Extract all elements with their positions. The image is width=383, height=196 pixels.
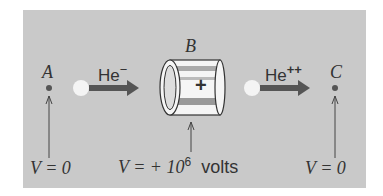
potential-c: V = 0: [305, 158, 346, 179]
positive-sign: +: [195, 74, 207, 97]
beam-2-label: He++: [265, 62, 302, 86]
ion-he-plus-plus: [244, 80, 260, 96]
point-c-dot: [332, 85, 338, 91]
point-a-dot: [46, 85, 52, 91]
point-a-label: A: [42, 62, 53, 83]
arrow-right-icon: [127, 80, 139, 96]
potential-a: V = 0: [30, 158, 71, 179]
point-b-label: B: [185, 36, 196, 57]
cylinder-electrode-b: [160, 60, 225, 115]
beam-1-label: He−: [98, 62, 127, 86]
ion-he-minus: [73, 80, 89, 96]
potential-b: V = + 106 volts: [118, 155, 238, 178]
point-c-label: C: [330, 62, 342, 83]
